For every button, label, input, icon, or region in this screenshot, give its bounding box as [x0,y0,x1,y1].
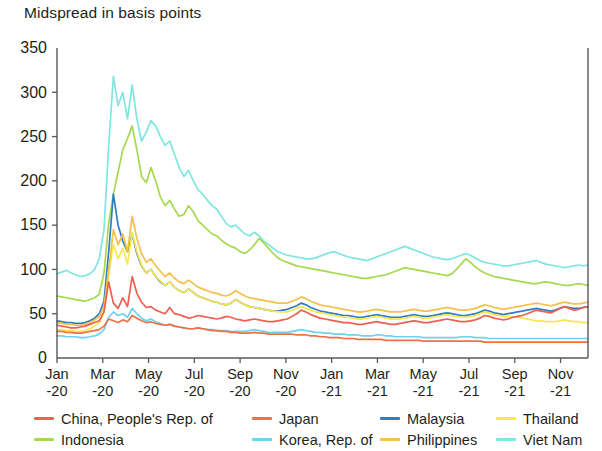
chart-plot-area: 050100150200250300350 Jan-20Mar-20May-20… [0,0,602,451]
legend-item-label: Korea, Rep. of [279,432,373,448]
x-axis-tick-label-month: Jan [45,366,68,382]
x-axis-tick-label-year: -20 [47,383,68,399]
series-line-china-people-s-rep-of [57,277,588,328]
x-axis-tick-label-month: Mar [90,366,115,382]
x-axis-tick-label-year: -20 [275,383,296,399]
series-line-viet-nam [57,76,588,276]
x-axis-tick-label-month: Sep [227,366,253,382]
x-axis-tick-label-month: Jul [460,366,479,382]
legend-swatch-icon [496,438,516,441]
x-axis-group: Jan-20Mar-20May-20Jul-20Sep-20Nov-20Jan-… [45,358,574,399]
legend-item[interactable]: Thailand [496,411,596,427]
x-axis-tick-label-year: -20 [92,383,113,399]
legend-swatch-icon [380,438,400,441]
legend-swatch-icon [380,417,400,420]
x-axis-tick-label-year: -21 [413,383,434,399]
y-axis-tick-label: 100 [20,261,47,278]
y-axis-tick-label: 0 [38,349,47,366]
x-axis-tick-label-month: Sep [502,366,528,382]
y-axis-tick-label: 200 [20,172,47,189]
legend-item[interactable]: Viet Nam [496,432,596,448]
legend-item-label: Thailand [523,411,579,427]
x-axis-tick-label-year: -21 [504,383,525,399]
y-axis-tick-label: 350 [20,39,47,56]
legend-item-label: Malaysia [407,411,464,427]
y-axis-tick-label: 250 [20,128,47,145]
y-axis-tick-label: 150 [20,216,47,233]
x-axis-tick-label-month: Mar [365,366,390,382]
x-axis-tick-label-year: -21 [550,383,571,399]
legend-item-label: Viet Nam [523,432,582,448]
legend-item[interactable]: Malaysia [380,411,496,427]
legend-swatch-icon [34,438,54,441]
x-axis-tick-label-month: Jan [320,366,343,382]
series-group [57,76,588,342]
x-axis-tick-label-month: Nov [548,366,575,382]
chart-legend: China, People's Rep. ofJapanMalaysiaThai… [34,408,594,450]
legend-item-label: Japan [279,411,319,427]
legend-swatch-icon [496,417,516,420]
series-line-indonesia [57,126,588,301]
legend-item[interactable]: Korea, Rep. of [252,432,380,448]
y-axis-group: 050100150200250300350 [20,39,57,366]
x-axis-tick-label-month: May [135,366,163,382]
y-axis-tick-label: 50 [29,305,47,322]
x-axis-tick-label-year: -21 [458,383,479,399]
x-axis-tick-label-year: -20 [230,383,251,399]
legend-item-label: China, People's Rep. of [61,411,213,427]
legend-item[interactable]: Japan [252,411,380,427]
x-axis-tick-label-year: -20 [184,383,205,399]
legend-item[interactable]: Indonesia [34,432,252,448]
legend-swatch-icon [252,438,272,441]
legend-item[interactable]: China, People's Rep. of [34,411,252,427]
x-axis-tick-label-year: -20 [138,383,159,399]
x-axis-tick-label-month: May [410,366,438,382]
x-axis-tick-label-year: -21 [321,383,342,399]
y-axis-tick-label: 300 [20,84,47,101]
x-axis-tick-label-month: Jul [185,366,204,382]
legend-item-label: Indonesia [61,432,124,448]
x-axis-tick-label-month: Nov [273,366,300,382]
legend-item-label: Philippines [407,432,477,448]
series-line-malaysia [57,194,588,323]
legend-swatch-icon [252,417,272,420]
x-axis-tick-label-year: -21 [367,383,388,399]
legend-item[interactable]: Philippines [380,432,496,448]
legend-swatch-icon [34,417,54,420]
chart-container: Midspread in basis points 05010015020025… [0,0,602,451]
series-line-thailand [57,232,588,331]
